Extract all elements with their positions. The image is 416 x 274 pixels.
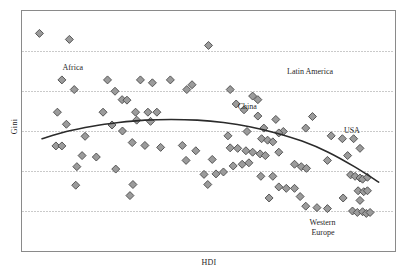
annotation-label: USA bbox=[344, 126, 360, 136]
scatter-chart: Gini HDI AfricaLatin AmericaChinaUSAWest… bbox=[0, 0, 416, 274]
annotation-label: Europe bbox=[311, 228, 334, 238]
y-axis-title: Gini bbox=[10, 107, 19, 147]
x-axis-title: HDI bbox=[186, 258, 232, 267]
annotation-label: Western bbox=[310, 218, 336, 228]
annotation-label: Africa bbox=[63, 63, 83, 73]
annotation-label: China bbox=[238, 102, 257, 112]
plot-canvas bbox=[0, 0, 416, 274]
annotation-label: Latin America bbox=[287, 67, 333, 77]
